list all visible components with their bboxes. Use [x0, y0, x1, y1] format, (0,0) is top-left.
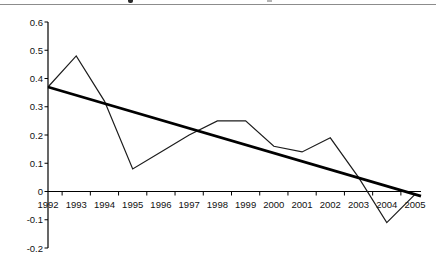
cropped-title-text-artifact [267, 0, 272, 2]
y-axis-tick-label: 0.1 [30, 158, 43, 169]
x-axis-tick-label: 2000 [263, 199, 284, 210]
trend-line [48, 87, 421, 196]
x-axis-tick-label: 2002 [320, 199, 341, 210]
y-axis-tick-label: -0.2 [27, 243, 43, 254]
y-axis-tick-label: 0.5 [30, 45, 43, 56]
cropped-title-text-artifact [128, 0, 133, 3]
x-axis-tick-label: 1995 [122, 199, 143, 210]
x-axis-tick-label: 1997 [179, 199, 200, 210]
chart-figure: 1992199319941995199619971998199920002001… [0, 0, 436, 274]
y-axis-tick-label: 0.6 [30, 17, 43, 28]
x-axis-tick-label: 1999 [235, 199, 256, 210]
y-axis-tick-label: 0.4 [30, 73, 43, 84]
x-axis-tick-label: 1993 [66, 199, 87, 210]
top-border-line [0, 4, 436, 5]
x-axis-tick-label: 1994 [94, 199, 115, 210]
x-axis-tick-label: 2003 [348, 199, 369, 210]
x-axis-tick-label: 2004 [376, 199, 397, 210]
y-axis-tick-label: -0.1 [27, 214, 43, 225]
x-axis-tick-label: 2001 [292, 199, 313, 210]
y-axis-tick-label: 0.3 [30, 101, 43, 112]
x-axis-tick-label: 1996 [150, 199, 171, 210]
line-chart: 1992199319941995199619971998199920002001… [0, 0, 436, 274]
x-axis-tick-label: 1998 [207, 199, 228, 210]
y-axis-tick-label: 0.2 [30, 130, 43, 141]
y-axis-tick-label: 0 [38, 186, 43, 197]
x-axis-tick-label: 2005 [404, 199, 425, 210]
